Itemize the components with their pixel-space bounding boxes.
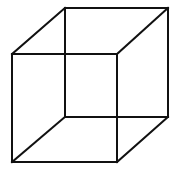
cube-edge-connector-bl bbox=[12, 117, 65, 162]
cube-edge-connector-br bbox=[117, 117, 168, 162]
cube-edge-connector-tr bbox=[117, 8, 168, 54]
necker-cube-diagram bbox=[0, 0, 180, 174]
cube-edges bbox=[12, 8, 168, 162]
cube-edge-connector-tl bbox=[12, 8, 65, 54]
